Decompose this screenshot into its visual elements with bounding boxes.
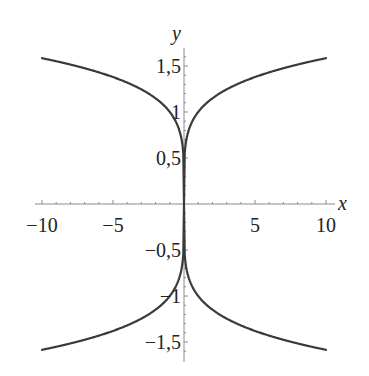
x-tick-label: 5 bbox=[250, 214, 260, 236]
y-tick-label: −1,5 bbox=[145, 331, 181, 353]
x-tick-label: −10 bbox=[26, 214, 57, 236]
x-tick-label: −5 bbox=[102, 214, 123, 236]
x-axis-label: x bbox=[337, 192, 347, 214]
chart-plot: −10−55101,510,5−0,5−1−1,5 x y bbox=[0, 0, 369, 376]
y-tick-label: −0,5 bbox=[145, 239, 181, 261]
y-tick-label: −1 bbox=[160, 285, 181, 307]
y-tick-label: 1 bbox=[171, 101, 181, 123]
y-axis-label: y bbox=[170, 22, 181, 45]
x-tick-label: 10 bbox=[316, 214, 336, 236]
y-tick-label: 1,5 bbox=[156, 55, 181, 77]
y-tick-label: 0,5 bbox=[156, 147, 181, 169]
